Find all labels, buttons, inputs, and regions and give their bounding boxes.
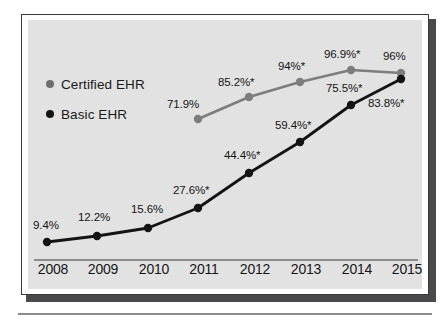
plot-area: Certified EHR Basic EHR 71.9% 85.2%* 94%… [28, 20, 422, 289]
bottom-separator-rule [18, 313, 432, 315]
value-label-basic-2012: 44.4%* [224, 149, 260, 161]
data-point-certified-2013 [296, 78, 304, 86]
data-point-basic-2013 [296, 138, 304, 146]
value-label-basic-2015: 83.8%* [368, 97, 404, 109]
value-label-certified-2014: 96.9%* [324, 48, 360, 60]
value-label-certified-2012: 85.2%* [218, 76, 254, 88]
legend-label-certified-ehr: Certified EHR [61, 77, 145, 92]
data-point-certified-2014 [347, 66, 355, 74]
legend-item-certified-ehr: Certified EHR [46, 72, 145, 96]
data-point-basic-2012 [245, 169, 253, 177]
value-label-basic-2011: 27.6%* [173, 184, 209, 196]
figure-frame: Certified EHR Basic EHR 71.9% 85.2%* 94%… [21, 14, 429, 295]
x-tick-2008: 2008 [38, 261, 68, 277]
chart-legend: Certified EHR Basic EHR [46, 72, 145, 132]
chart-page: Certified EHR Basic EHR 71.9% 85.2%* 94%… [0, 0, 444, 323]
value-label-basic-2010: 15.6% [131, 203, 163, 215]
x-tick-2014: 2014 [342, 261, 372, 277]
legend-marker-basic-ehr-icon [46, 110, 54, 118]
value-label-basic-2009: 12.2% [78, 211, 110, 223]
value-label-basic-2014: 75.5%* [326, 82, 362, 94]
x-tick-2013: 2013 [291, 261, 321, 277]
x-tick-2011: 2011 [189, 261, 218, 277]
x-tick-2015: 2015 [392, 261, 422, 277]
value-label-certified-2011: 71.9% [167, 98, 199, 110]
value-label-basic-2013: 59.4%* [275, 119, 311, 131]
x-tick-2012: 2012 [240, 261, 270, 277]
data-point-certified-2011 [194, 115, 202, 123]
x-axis-labels: 2008 2009 2010 2011 2012 2013 2014 2015 [28, 261, 422, 283]
value-label-certified-2015: 96% [383, 50, 406, 62]
x-tick-2010: 2010 [139, 261, 169, 277]
legend-label-basic-ehr: Basic EHR [61, 107, 127, 122]
value-label-certified-2013: 94%* [278, 60, 305, 72]
value-label-basic-2008: 9.4% [33, 219, 59, 231]
x-tick-2009: 2009 [88, 261, 118, 277]
data-point-basic-2011 [194, 204, 202, 212]
legend-marker-certified-ehr-icon [46, 80, 54, 88]
data-point-certified-2012 [245, 93, 253, 101]
data-point-basic-2008 [43, 238, 51, 246]
data-point-basic-2015 [397, 75, 405, 83]
legend-item-basic-ehr: Basic EHR [46, 102, 145, 126]
data-point-basic-2009 [93, 232, 101, 240]
data-point-basic-2014 [347, 101, 355, 109]
data-point-basic-2010 [144, 224, 152, 232]
